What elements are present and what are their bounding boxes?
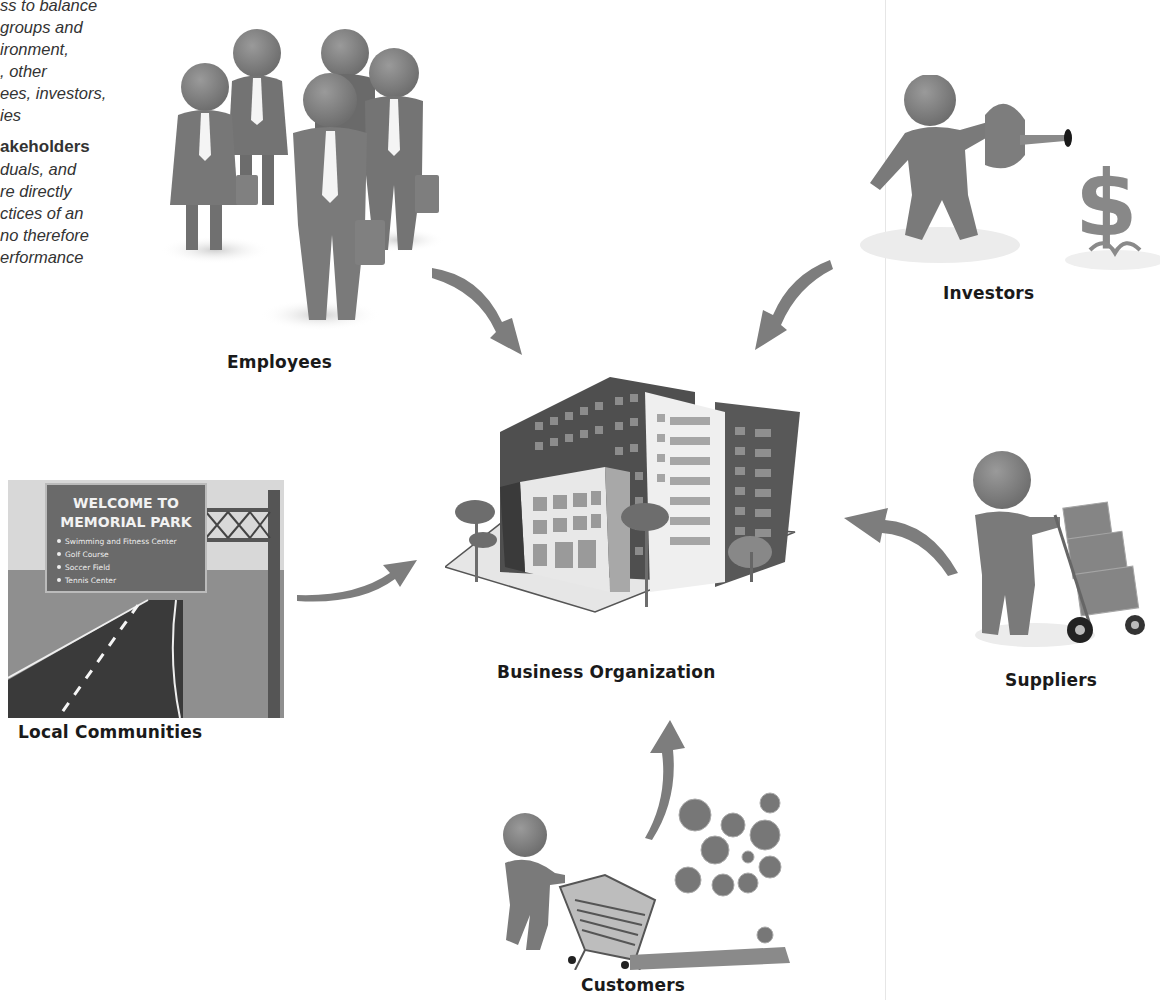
- customers-label: Customers: [581, 975, 685, 995]
- business-organization-label: Business Organization: [497, 662, 716, 682]
- sign-item: Golf Course: [65, 550, 109, 559]
- sign-title-line1: WELCOME TO: [73, 495, 179, 511]
- sign-item: Tennis Center: [64, 576, 117, 585]
- sign-title-line2: MEMORIAL PARK: [60, 514, 193, 530]
- suppliers-label: Suppliers: [1005, 670, 1097, 690]
- arrow-communities-icon: [295, 555, 420, 605]
- investors-label: Investors: [943, 283, 1034, 303]
- arrow-investors-icon: [745, 255, 835, 355]
- intro-line: ss to balance: [0, 0, 200, 16]
- arrow-suppliers-icon: [840, 498, 960, 578]
- svg-text:$: $: [1075, 151, 1138, 256]
- employees-label: Employees: [227, 352, 332, 372]
- road-welcome-sign-icon: WELCOME TO MEMORIAL PARK Swimming and Fi…: [8, 480, 284, 718]
- person-with-shopping-cart-icon: [480, 775, 795, 970]
- local-communities-label: Local Communities: [18, 722, 202, 742]
- sign-item: Swimming and Fitness Center: [65, 537, 178, 546]
- sign-item: Soccer Field: [65, 563, 110, 572]
- arrow-employees-icon: [430, 260, 530, 360]
- employees-icon: [160, 25, 450, 345]
- office-building-icon: [445, 372, 810, 617]
- person-with-hand-truck-icon: [960, 435, 1170, 655]
- investors-icon: $: [860, 75, 1160, 275]
